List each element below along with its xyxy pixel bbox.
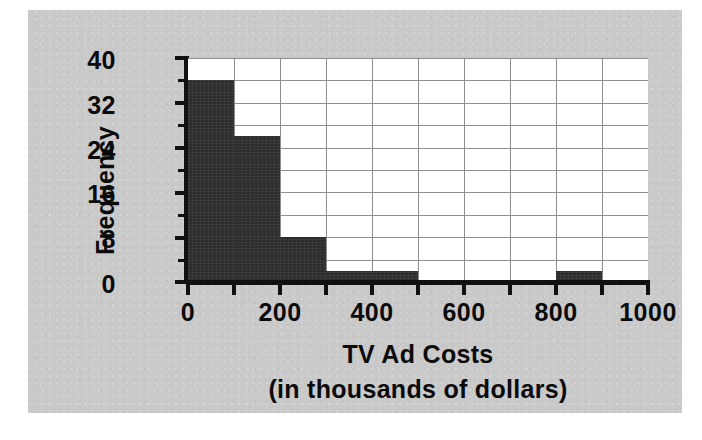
- x-tick-700: [508, 285, 512, 295]
- y-tick-label-8: 8: [102, 225, 116, 254]
- gridline-v-900: [602, 58, 603, 282]
- y-tick-0: [175, 280, 185, 284]
- x-tick-200: [278, 285, 282, 295]
- y-tick-4: [178, 259, 185, 262]
- x-tick-400: [370, 285, 374, 295]
- x-tick-800: [554, 285, 558, 295]
- plot-area: [188, 58, 648, 282]
- x-tick-label-800: 800: [511, 298, 601, 327]
- y-tick-label-16: 16: [87, 180, 116, 209]
- gridline-v-800: [556, 58, 557, 282]
- x-tick-300: [324, 285, 328, 295]
- x-tick-label-1000: 1000: [603, 298, 693, 327]
- x-axis-title: TV Ad Costs (in thousands of dollars): [188, 340, 648, 404]
- y-tick-40: [175, 56, 185, 60]
- gridline-v-400: [372, 58, 373, 282]
- x-tick-0: [186, 285, 190, 295]
- x-tick-label-0: 0: [143, 298, 233, 327]
- gridline-v-700: [510, 58, 511, 282]
- bar-0-100[interactable]: [188, 80, 234, 282]
- y-tick-12: [178, 214, 185, 217]
- y-tick-16: [175, 191, 185, 195]
- gridline-v-600: [464, 58, 465, 282]
- bar-200-300[interactable]: [280, 237, 326, 282]
- y-tick-label-24: 24: [87, 136, 116, 165]
- gridline-v-500: [418, 58, 419, 282]
- x-tick-100: [232, 285, 236, 295]
- x-tick-1000: [646, 285, 650, 295]
- x-axis-title-line2: (in thousands of dollars): [188, 375, 648, 404]
- y-tick-24: [175, 146, 185, 150]
- y-tick-28: [178, 124, 185, 127]
- y-tick-label-32: 32: [87, 91, 116, 120]
- gridline-v-300: [326, 58, 327, 282]
- x-tick-500: [416, 285, 420, 295]
- x-tick-900: [600, 285, 604, 295]
- x-tick-label-600: 600: [419, 298, 509, 327]
- figure: Frequency 40 32 24 16 8 0: [0, 0, 702, 440]
- chart-panel: Frequency 40 32 24 16 8 0: [28, 10, 682, 413]
- x-tick-label-400: 400: [327, 298, 417, 327]
- y-tick-label-40: 40: [87, 46, 116, 75]
- y-tick-32: [175, 101, 185, 105]
- x-tick-label-200: 200: [235, 298, 325, 327]
- x-axis-title-line1: TV Ad Costs: [188, 340, 648, 369]
- y-tick-8: [175, 236, 185, 240]
- y-tick-36: [178, 79, 185, 82]
- bar-100-200[interactable]: [234, 136, 280, 282]
- y-tick-label-0: 0: [102, 270, 116, 299]
- y-tick-20: [178, 169, 185, 172]
- x-tick-600: [462, 285, 466, 295]
